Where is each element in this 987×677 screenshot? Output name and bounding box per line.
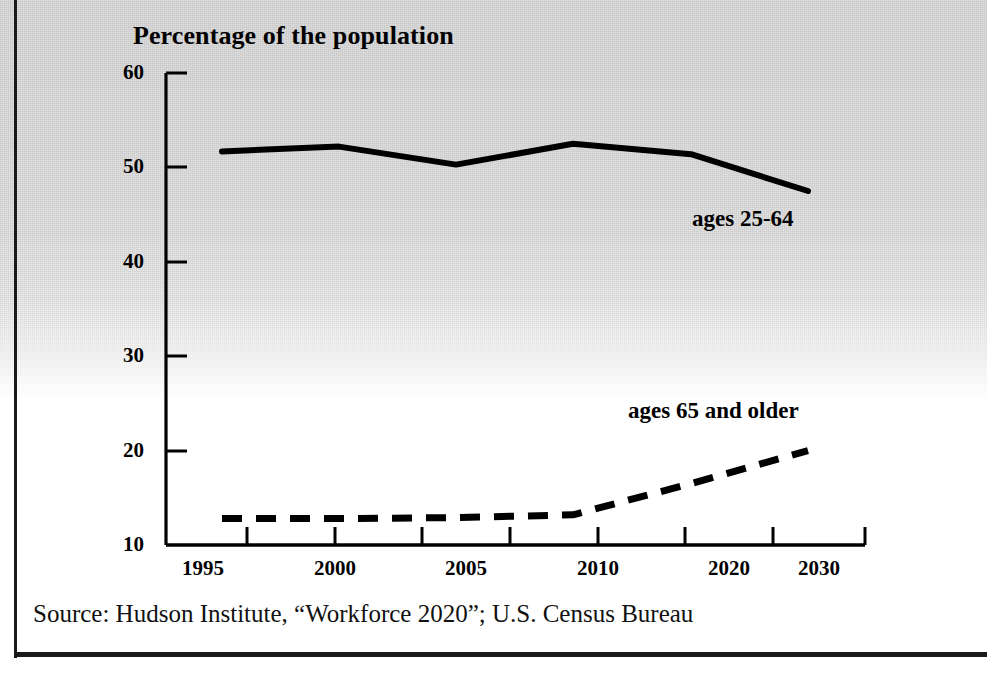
x-tick-label-2020: 2020	[679, 556, 779, 581]
y-tick-label-10: 10	[98, 532, 144, 557]
y-tick-label-20: 20	[98, 438, 144, 463]
x-tick-label-2010: 2010	[548, 556, 648, 581]
source-note: Source: Hudson Institute, “Workforce 202…	[33, 600, 693, 628]
series-annotation-ages-25-64: ages 25-64	[692, 206, 794, 232]
y-tick-label-60: 60	[98, 60, 144, 85]
x-tick-label-1995: 1995	[153, 556, 253, 581]
y-axis-ticks	[166, 73, 187, 451]
y-tick-label-40: 40	[98, 249, 144, 274]
x-tick-label-2000: 2000	[285, 556, 385, 581]
x-axis-ticks	[247, 527, 865, 545]
page-title: Percentage of the population	[133, 21, 454, 51]
x-tick-label-2005: 2005	[416, 556, 516, 581]
x-tick-label-2030: 2030	[769, 556, 869, 581]
y-tick-label-30: 30	[98, 343, 144, 368]
chart-figure: Percentage of the population 60 50 40 30…	[0, 0, 987, 677]
series-line-ages-65-and-older	[222, 451, 808, 519]
y-tick-label-50: 50	[98, 154, 144, 179]
series-annotation-ages-65-and-older: ages 65 and older	[628, 398, 799, 424]
series-line-ages-25-64	[222, 144, 808, 191]
